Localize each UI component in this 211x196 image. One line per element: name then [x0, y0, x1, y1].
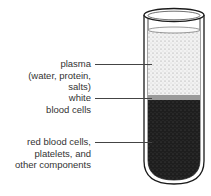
label-line: red blood cells,: [15, 136, 91, 148]
test-tube: [144, 9, 204, 185]
label-line: plasma: [28, 58, 91, 70]
plasma-label: plasma (water, protein, salts): [28, 58, 91, 93]
label-line: blood cells: [46, 104, 91, 116]
red-blood-cells-leader-line: [95, 142, 152, 143]
plasma-layer: [148, 30, 200, 96]
white-blood-cells-label: white blood cells: [46, 92, 91, 115]
red-blood-cells-label: red blood cells, platelets, and other co…: [15, 136, 91, 171]
red-blood-cells-layer: [148, 100, 200, 182]
label-line: salts): [28, 81, 91, 93]
label-line: platelets, and: [15, 148, 91, 160]
label-line: other components: [15, 159, 91, 171]
plasma-leader-line: [95, 64, 152, 65]
label-line: white: [46, 92, 91, 104]
white-blood-cells-leader-line: [95, 98, 152, 99]
label-line: (water, protein,: [28, 70, 91, 82]
